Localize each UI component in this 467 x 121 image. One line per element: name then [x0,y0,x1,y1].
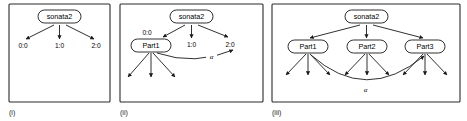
node-sonata2-label: sonata2 [354,12,380,21]
three-panel-graph-figure: sonata2 0:0 1:0 2:0 (i) sonata2 0:0 1:0 … [0,0,467,121]
node-part1-label: Part1 [142,41,159,50]
node-sonata2-label: sonata2 [47,12,73,21]
panel-iii: sonata2 Part1 Part2 Part3 α (iii) [272,4,460,117]
panel-i: sonata2 0:0 1:0 2:0 (i) [9,4,110,117]
alpha-label: α [364,86,368,94]
node-part2-label: Part2 [358,42,375,51]
child-label-1-0: 1:0 [187,41,196,48]
panel-i-caption: (i) [9,109,15,117]
child-label-0-0: 0:0 [142,29,151,36]
alpha-label: α [210,53,214,61]
child-label-0-0: 0:0 [18,42,27,49]
child-label-2-0: 2:0 [91,42,100,49]
panel-iii-caption: (iii) [272,109,281,117]
child-label-2-0: 2:0 [225,41,234,48]
node-part3-label: Part3 [416,42,433,51]
panel-ii: sonata2 0:0 1:0 2:0 Part1 α (ii) [120,4,263,117]
child-label-1-0: 1:0 [55,42,64,49]
node-part1-label: Part1 [299,42,316,51]
panel-ii-caption: (ii) [120,109,128,117]
node-sonata2-label: sonata2 [179,12,205,21]
